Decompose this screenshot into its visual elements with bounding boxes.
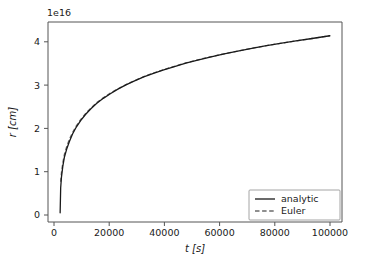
y-axis-ticks bbox=[44, 42, 48, 215]
x-tick-label: 60000 bbox=[204, 227, 234, 238]
y-axis-title: r [cm] bbox=[7, 107, 18, 137]
y-axis-offset-text: 1e16 bbox=[47, 7, 71, 18]
x-axis-ticks bbox=[54, 222, 330, 226]
x-tick-label: 0 bbox=[51, 227, 57, 238]
x-tick-label: 80000 bbox=[260, 227, 290, 238]
x-tick-label: 100000 bbox=[312, 227, 348, 238]
y-tick-label: 4 bbox=[34, 36, 40, 47]
chart-legend: analytic Euler bbox=[249, 190, 340, 220]
x-tick-label: 20000 bbox=[94, 227, 124, 238]
legend-label-analytic: analytic bbox=[281, 193, 319, 204]
y-axis-tick-labels: 0 1 2 3 4 bbox=[34, 36, 40, 220]
y-tick-label: 1 bbox=[34, 166, 40, 177]
y-tick-label: 0 bbox=[34, 209, 40, 220]
y-tick-label: 3 bbox=[34, 80, 40, 91]
figure-canvas: 0 1 2 3 4 1e16 0 20000 40000 60000 80000… bbox=[0, 0, 371, 267]
y-tick-label: 2 bbox=[34, 123, 40, 134]
x-axis-tick-labels: 0 20000 40000 60000 80000 100000 bbox=[51, 227, 348, 238]
x-tick-label: 40000 bbox=[149, 227, 179, 238]
legend-label-euler: Euler bbox=[281, 205, 306, 216]
x-axis-title: t [s] bbox=[185, 243, 205, 254]
chart-plot: 0 1 2 3 4 1e16 0 20000 40000 60000 80000… bbox=[0, 0, 371, 267]
